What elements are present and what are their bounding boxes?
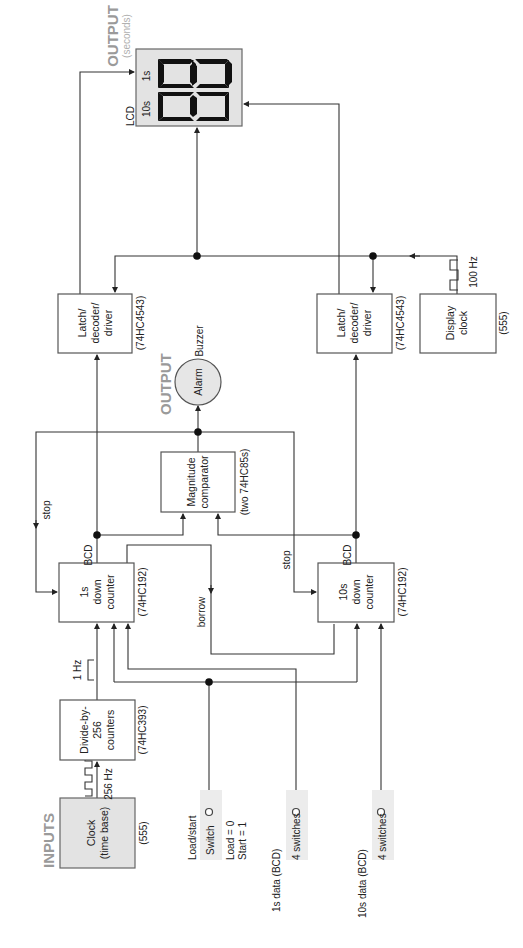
stop-10s-label: stop	[281, 550, 292, 569]
svg-text:driver: driver	[102, 309, 114, 336]
wire-1s-data	[128, 624, 296, 808]
input-load-start: Load/start Switch Load = 0 Start = 1	[187, 790, 248, 860]
svg-text:driver: driver	[361, 309, 373, 336]
1s-data-title: 1s data (BCD)	[271, 849, 282, 912]
svg-text:counters: counters	[104, 710, 116, 750]
display-clock-block: Display clock (555)	[420, 294, 509, 353]
svg-text:(555): (555)	[498, 311, 509, 334]
freq-100hz: 100 Hz	[468, 256, 479, 288]
svg-text:10s: 10s	[337, 584, 349, 601]
svg-text:(74HC192): (74HC192)	[397, 568, 408, 617]
output-lcd-header: OUTPUT	[104, 5, 121, 67]
output-alarm-header: OUTPUT	[157, 353, 174, 415]
svg-text:256: 256	[91, 721, 103, 739]
10s-data-title: 10s data (BCD)	[357, 849, 368, 918]
clock-label: Clock	[85, 819, 97, 846]
alarm-block: Alarm Buzzer	[175, 325, 221, 405]
lcd-1s-label: 1s	[141, 71, 152, 82]
wire-display-clock	[115, 256, 457, 294]
svg-text:decoder/: decoder/	[89, 302, 101, 343]
clock-block: Clock (time base) (555)	[60, 798, 149, 868]
counter-10s-block: 10s down counter (74HC192)	[318, 563, 408, 622]
svg-text:Latch/: Latch/	[335, 309, 347, 338]
load-start-terminal[interactable]	[206, 809, 213, 816]
freq-1hz: 1 Hz	[72, 660, 83, 681]
timer-block-diagram: Clock (time base) (555) INPUTS Divide-by…	[0, 0, 523, 948]
stop-1s-label: stop	[41, 500, 52, 519]
svg-text:Load = 0: Load = 0	[225, 820, 236, 860]
latch-10s-block: Latch/ decoder/ driver (74HC4543)	[317, 294, 406, 353]
10s-data-switches[interactable]: 4 switches	[377, 813, 388, 860]
svg-text:Display: Display	[444, 305, 456, 340]
freq-256hz: 256 Hz	[103, 768, 114, 800]
svg-text:(74HC4543): (74HC4543)	[395, 296, 406, 350]
output-lcd-sub: (seconds)	[121, 14, 132, 58]
svg-text:Alarm: Alarm	[192, 368, 204, 396]
svg-text:clock: clock	[457, 310, 469, 335]
wire-latch10-lcd	[244, 104, 339, 294]
input-10s-data: 10s data (BCD) 4 switches	[357, 790, 394, 918]
lcd-10s-label: 10s	[141, 101, 152, 117]
borrow-label: borrow	[196, 596, 207, 627]
load-start-switch[interactable]: Switch	[205, 826, 216, 855]
svg-text:down: down	[350, 579, 362, 604]
clock-sublabel: (time base)	[98, 807, 110, 860]
wire-latch1-lcd	[80, 72, 134, 294]
input-1s-data: 1s data (BCD) 4 switches	[271, 790, 308, 912]
svg-text:Latch/: Latch/	[76, 309, 88, 338]
comparator-block: Magnitude comparator (two 74HC85s)	[161, 449, 250, 516]
bcd-1s-label: BCD	[83, 544, 94, 565]
wires	[36, 72, 457, 808]
svg-text:down: down	[91, 579, 103, 604]
bcd-10s-label: BCD	[342, 544, 353, 565]
load-start-title: Load/start	[187, 815, 198, 860]
svg-text:(74HC393): (74HC393)	[137, 706, 148, 755]
svg-text:(74HC192): (74HC192)	[137, 568, 148, 617]
inputs-header: INPUTS	[40, 813, 57, 868]
svg-text:1s: 1s	[78, 586, 90, 597]
svg-text:Magnitude: Magnitude	[185, 457, 197, 506]
lcd-label: LCD	[125, 106, 136, 126]
divider-block: Divide-by- 256 counters (74HC393)	[60, 700, 148, 760]
svg-text:Start = 1: Start = 1	[237, 821, 248, 860]
svg-text:(two 74HC85s): (two 74HC85s)	[239, 449, 250, 516]
svg-text:counter: counter	[363, 574, 375, 610]
svg-text:(74HC4543): (74HC4543)	[135, 296, 146, 350]
clock-part: (555)	[138, 821, 149, 844]
buzzer-label: Buzzer	[194, 325, 205, 357]
counter-1s-block: 1s down counter (74HC192)	[59, 563, 148, 622]
latch-1s-block: Latch/ decoder/ driver (74HC4543)	[58, 294, 146, 353]
1s-data-switches[interactable]: 4 switches	[291, 813, 302, 860]
svg-text:comparator: comparator	[198, 455, 210, 509]
svg-text:counter: counter	[104, 574, 116, 610]
waveform-1hz	[88, 660, 94, 680]
svg-text:Divide-by-: Divide-by-	[78, 706, 90, 754]
svg-text:decoder/: decoder/	[348, 302, 360, 343]
wire-borrow	[127, 545, 334, 654]
